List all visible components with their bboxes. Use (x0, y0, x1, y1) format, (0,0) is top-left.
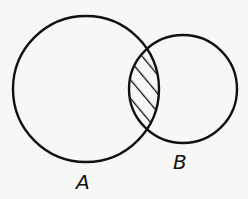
set-a-label: A (76, 172, 90, 192)
venn-diagram: A B (0, 0, 248, 199)
venn-svg (0, 0, 248, 199)
set-b-label: B (173, 152, 187, 172)
